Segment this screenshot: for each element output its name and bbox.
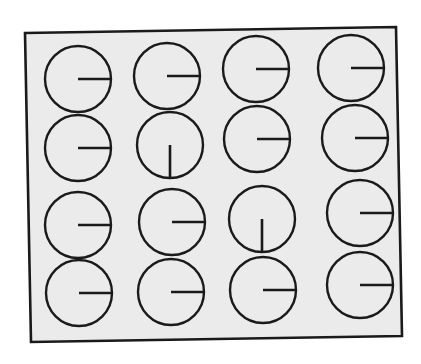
- visual-search-diagram: [0, 0, 421, 364]
